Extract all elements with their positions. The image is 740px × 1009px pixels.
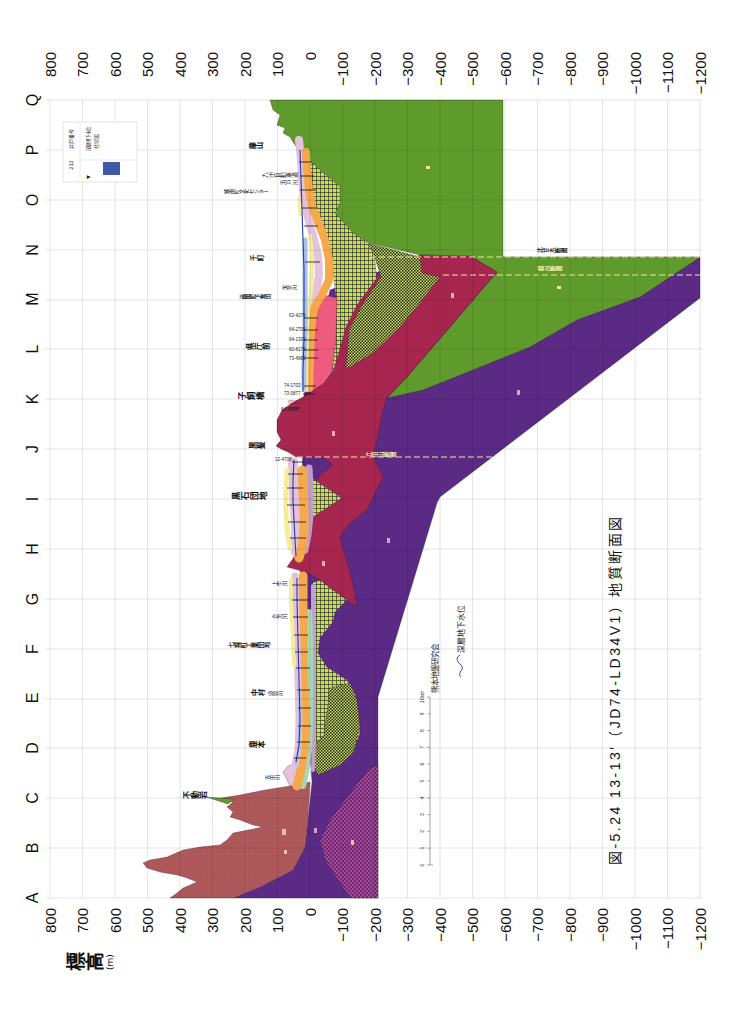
section-marker-p: P — [24, 145, 41, 156]
place-label: 藤山 — [248, 140, 264, 150]
legend-groundwater-label: 深層地下水位 — [85, 126, 92, 151]
place-label: 画図町下無田 — [239, 293, 272, 299]
place-label: 鹿本 — [248, 740, 266, 750]
axis-tick-label: −200 — [367, 908, 384, 942]
section-marker-n: N — [24, 244, 41, 256]
borehole-id: 64-2700 — [289, 327, 306, 332]
borehole-id: 73-0877 — [284, 391, 301, 396]
axis-tick-label: 100 — [269, 52, 286, 77]
axis-tick-label: 200 — [237, 52, 254, 77]
axis-tick-label: −500 — [464, 52, 481, 86]
borehole-id: 73-4960 — [289, 356, 306, 361]
unit-code-marker — [351, 840, 354, 845]
legend-frame — [63, 122, 137, 182]
scale-tick-label: 3 — [419, 813, 425, 816]
unit-code-marker — [387, 538, 390, 543]
section-marker-d: D — [24, 742, 41, 754]
scale-tick-label: 5 — [419, 779, 425, 782]
unit-code-marker — [332, 431, 335, 436]
elevation-axis-left: 800 700 600 500 400 300 200 100 0 −100 −… — [42, 908, 709, 950]
orange-strip-central — [299, 470, 304, 558]
axis-tick-label: 0 — [302, 908, 319, 916]
axis-tick-label: −100 — [334, 908, 351, 942]
place-label: 上生川 — [271, 580, 288, 586]
place-label: 合志川 — [271, 613, 288, 619]
axis-tick-label: −700 — [529, 52, 546, 86]
axis-tick-label: −1100 — [659, 908, 676, 949]
geologic-cross-section: A B C D E F G H I J K L M N O P Q 800 70… — [0, 0, 740, 1009]
scale-tick-label: 0 — [419, 863, 425, 866]
unit-code-marker — [517, 390, 520, 395]
borehole-id: 63-4276 — [289, 313, 306, 318]
place-label: 不動岩 — [183, 791, 208, 801]
axis-tick-label: −400 — [432, 908, 449, 942]
groundwater-triangle-icon: ▼ — [85, 175, 91, 179]
fault-label-kita-amagi: 北甘木断層 — [536, 246, 568, 253]
scale-tick-label: 8 — [419, 729, 425, 732]
axis-tick-label: −200 — [367, 52, 384, 86]
medium-lavender-strip-south — [313, 586, 314, 770]
scale-bar-line — [427, 697, 433, 865]
axis-tick-label: −1000 — [627, 52, 644, 94]
place-label: 黒髪 — [248, 441, 266, 451]
scale-tick-label: 9 — [419, 712, 425, 715]
groundwater-key: 深層地下水位 — [456, 605, 466, 677]
legend-box: 212 井戸番号 ▼ 深層地下水位 柱状図 — [63, 122, 137, 182]
axis-tick-label: −1000 — [627, 908, 644, 950]
unit-code-marker — [314, 828, 317, 833]
axis-unit: (m) — [105, 954, 115, 970]
axis-tick-label: −800 — [562, 52, 579, 86]
scale-tick-label: 4 — [419, 796, 425, 799]
axis-tick-label: 600 — [107, 52, 124, 77]
axis-tick-label: 200 — [237, 908, 254, 933]
unit-code-marker — [426, 166, 430, 169]
axis-tick-label: −300 — [399, 52, 416, 86]
scale-bar: 0 1 2 3 4 5 6 7 8 9 10km — [419, 691, 433, 867]
borehole-id: 12-4708 — [275, 457, 292, 462]
borehole-id: 64-1309 — [289, 337, 306, 342]
borehole-column-swatch — [103, 162, 120, 175]
axis-tick-label: 700 — [74, 52, 91, 77]
credit-label: 熊本地盤研究会 — [430, 643, 440, 693]
axis-title: 標高 — [65, 951, 104, 973]
scale-tick-label: 1 — [419, 847, 425, 850]
place-labels: 藤山 九州自動車道 浜戸川 城南町文化センター 千町 加勢川 画図町下無田 県庁… — [183, 140, 299, 801]
place-label: 黒石団地 — [231, 491, 268, 502]
section-marker-k: K — [24, 393, 41, 404]
axis-tick-label: −300 — [399, 908, 416, 942]
groundwater-key-label: 深層地下水位 — [456, 605, 466, 653]
scale-tick-label: 6 — [419, 763, 425, 766]
section-marker-l: L — [24, 344, 41, 353]
axis-tick-label: 500 — [139, 908, 156, 933]
axis-tick-label: −1100 — [659, 52, 676, 93]
scale-tick-label: 10km — [419, 691, 425, 703]
legend-well-number-label: 井戸番号 — [68, 129, 75, 149]
place-label: 吉田川 — [264, 774, 280, 780]
groundwater-wave-icon — [457, 655, 462, 677]
section-marker-j: J — [24, 445, 41, 453]
axis-tick-label: 500 — [139, 52, 156, 77]
section-marker-b: B — [24, 843, 41, 854]
unit-code-marker — [282, 829, 286, 835]
place-label: 九州自動車道 — [261, 172, 299, 179]
unit-code-marker — [322, 561, 325, 566]
place-label: 七城町工業団地 — [227, 642, 271, 650]
legend-well-number: 212 — [68, 160, 74, 170]
place-label: 浜戸川 — [279, 179, 298, 185]
axis-tick-label: 800 — [42, 52, 59, 77]
section-marker-m: M — [24, 292, 41, 305]
place-label: 中村 — [250, 688, 266, 697]
axis-tick-label: −700 — [529, 908, 546, 942]
axis-tick-label: −1200 — [692, 908, 709, 950]
unit-code-marker — [557, 286, 561, 289]
section-marker-e: E — [24, 693, 41, 704]
section-marker-o: O — [24, 194, 41, 206]
place-label: 千町 — [249, 255, 265, 263]
section-marker-a: A — [24, 892, 41, 903]
borehole-id: 74-1703 — [284, 383, 301, 388]
axis-tick-label: 300 — [204, 908, 221, 933]
section-marker-c: C — [24, 792, 41, 804]
scale-tick-label: 7 — [419, 746, 425, 749]
borehole-id: 60-8178 — [289, 347, 306, 352]
figure-title: 図-5.24 13-13′（JD74-LD34V1）地質断面図 — [607, 517, 623, 865]
